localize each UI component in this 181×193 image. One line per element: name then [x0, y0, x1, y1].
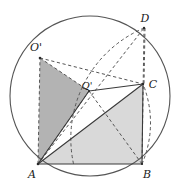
label-Qprime-center: Q' [82, 80, 93, 91]
vertex-dot-B [141, 163, 143, 165]
vertex-dot-C [142, 83, 144, 85]
figure-canvas: A B C D O' Q' [0, 0, 181, 193]
label-D: D [140, 12, 150, 25]
vertex-dot-Oprime [39, 57, 42, 60]
geometry-figure: A B C D O' Q' [0, 0, 181, 193]
shaded-regions [38, 58, 143, 164]
label-B: B [142, 168, 151, 181]
label-Oprime-top: O' [30, 41, 42, 54]
label-A: A [27, 168, 36, 181]
vertex-dot-D [143, 27, 145, 29]
label-C: C [149, 78, 158, 91]
vertex-dot-A [37, 163, 40, 166]
